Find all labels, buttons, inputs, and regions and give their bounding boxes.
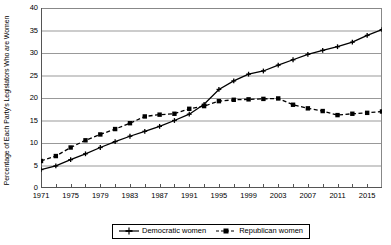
data-point-marker xyxy=(83,151,88,156)
y-axis-label: Percentage of Each Party's Legislators W… xyxy=(0,0,14,200)
data-point-marker xyxy=(157,124,162,129)
y-tick-label: 20 xyxy=(30,94,38,102)
legend-label-republican-women: Republican women xyxy=(239,227,303,235)
data-point-marker xyxy=(83,138,87,142)
data-point-marker xyxy=(365,33,370,38)
y-tick-label: 5 xyxy=(34,162,38,170)
y-tick-label: 25 xyxy=(30,72,38,80)
x-tick-label: 1983 xyxy=(122,192,139,200)
data-point-marker xyxy=(53,164,58,169)
data-point-marker xyxy=(335,44,340,49)
data-point-marker xyxy=(350,40,355,45)
y-tick-label: 40 xyxy=(30,4,38,12)
data-point-marker xyxy=(261,97,265,101)
data-point-marker xyxy=(380,109,382,113)
data-point-marker xyxy=(306,106,310,110)
y-tick-label: 10 xyxy=(30,139,38,147)
data-point-marker xyxy=(41,159,43,163)
series-democratic-women xyxy=(41,27,382,172)
data-point-marker xyxy=(335,113,339,117)
data-point-marker xyxy=(98,145,103,150)
y-axis-label-text: Percentage of Each Party's Legislators W… xyxy=(4,15,11,185)
y-axis-tick-labels: 0510152025303540 xyxy=(16,8,38,188)
data-point-marker xyxy=(276,96,280,100)
x-tick-label: 1995 xyxy=(211,192,228,200)
y-tick-label: 35 xyxy=(30,27,38,35)
x-tick-label: 2011 xyxy=(329,192,345,200)
legend-item-republican-women: Republican women xyxy=(216,227,303,235)
x-tick-label: 2007 xyxy=(300,192,317,200)
x-tick-label: 1979 xyxy=(92,192,109,200)
data-point-marker xyxy=(217,99,221,103)
data-point-marker xyxy=(232,98,236,102)
data-point-marker xyxy=(320,48,325,53)
x-axis-tick-labels: 1971197519791983198719911995199920032007… xyxy=(41,192,382,208)
data-point-marker xyxy=(172,112,176,116)
series-republican-women xyxy=(41,96,382,163)
series-line xyxy=(41,30,382,170)
data-point-marker xyxy=(143,114,147,118)
line-chart: Percentage of Each Party's Legislators W… xyxy=(0,0,391,245)
data-point-marker xyxy=(276,63,281,68)
chart-legend: Democratic women Republican women xyxy=(112,224,310,239)
data-point-marker xyxy=(291,103,295,107)
x-tick-label: 1999 xyxy=(240,192,257,200)
legend-swatch-dashed-square-icon xyxy=(216,227,236,235)
data-point-marker xyxy=(291,57,296,62)
x-tick-label: 1975 xyxy=(62,192,79,200)
data-point-marker xyxy=(98,132,102,136)
x-tick-label: 1991 xyxy=(181,192,198,200)
gridlines xyxy=(41,9,382,167)
data-point-marker xyxy=(128,134,133,139)
data-point-marker xyxy=(128,121,132,125)
data-point-marker xyxy=(305,52,310,57)
data-point-marker xyxy=(202,104,206,108)
x-tick-label: 1971 xyxy=(33,192,50,200)
data-point-marker xyxy=(68,157,73,162)
data-point-marker xyxy=(187,107,191,111)
legend-label-democratic-women: Democratic women xyxy=(142,227,206,235)
plot-area xyxy=(41,8,382,188)
y-tick-label: 30 xyxy=(30,49,38,57)
data-point-marker xyxy=(41,167,43,172)
x-tick-label: 1987 xyxy=(151,192,168,200)
y-tick-label: 15 xyxy=(30,117,38,125)
x-tick-label: 2003 xyxy=(270,192,287,200)
data-point-marker xyxy=(54,154,58,158)
data-point-marker xyxy=(365,111,369,115)
plot-svg xyxy=(41,8,382,188)
legend-swatch-solid-plus-icon xyxy=(119,227,139,235)
data-point-marker xyxy=(142,129,147,134)
data-point-marker xyxy=(113,127,117,131)
x-tick-label: 2015 xyxy=(359,192,376,200)
data-point-marker xyxy=(246,97,250,101)
data-series-layer xyxy=(41,27,382,172)
data-point-marker xyxy=(350,112,354,116)
data-point-marker xyxy=(321,109,325,113)
data-point-marker xyxy=(261,69,266,74)
data-point-marker xyxy=(157,112,161,116)
data-point-marker xyxy=(172,118,177,123)
legend-item-democratic-women: Democratic women xyxy=(119,227,206,235)
data-point-marker xyxy=(68,145,72,149)
